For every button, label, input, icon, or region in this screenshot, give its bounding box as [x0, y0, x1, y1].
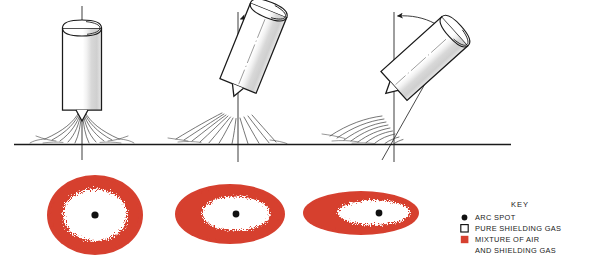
key-row-mixture: MIXTURE OF AIR: [461, 235, 540, 244]
key-legend: KEY ARC SPOT PURE SHIELDING GAS MIXTURE …: [461, 200, 562, 255]
gas-spot-circular: [47, 175, 143, 255]
torch-tilted-moderate-group: [168, 0, 290, 162]
diagram-canvas: KEY ARC SPOT PURE SHIELDING GAS MIXTURE …: [0, 0, 590, 274]
arc-spot-marker-1: [91, 211, 98, 218]
torch-vertical-body: [63, 20, 102, 121]
arc-spot-marker-3: [376, 210, 383, 217]
key-row-arc-spot: ARC SPOT: [462, 213, 516, 222]
torch-steep-gas-flow: [322, 116, 403, 144]
key-label-arc-spot: ARC SPOT: [475, 213, 516, 222]
red-square-icon: [461, 236, 469, 243]
white-square-icon: [461, 225, 468, 232]
torch-tilted-steep-group: [322, 11, 474, 162]
gas-spot-oval: [175, 184, 285, 244]
key-label-pure-shielding-gas: PURE SHIELDING GAS: [475, 224, 561, 233]
arc-spot-marker-2: [233, 211, 240, 218]
torch-moderate-gas-flow: [168, 113, 287, 144]
torch-vertical-group: [30, 6, 134, 160]
black-dot-icon: [462, 215, 468, 221]
key-label-mixture-line2: AND SHIELDING GAS: [475, 246, 556, 255]
key-title: KEY: [511, 200, 529, 209]
torch-steep-body: [373, 11, 474, 108]
torch-moderate-body: [216, 0, 290, 104]
key-label-mixture-line1: MIXTURE OF AIR: [475, 235, 539, 244]
welding-torch-diagram: KEY ARC SPOT PURE SHIELDING GAS MIXTURE …: [0, 0, 590, 274]
key-row-pure-shielding-gas: PURE SHIELDING GAS: [461, 224, 562, 233]
gas-spot-elongated: [303, 191, 419, 235]
